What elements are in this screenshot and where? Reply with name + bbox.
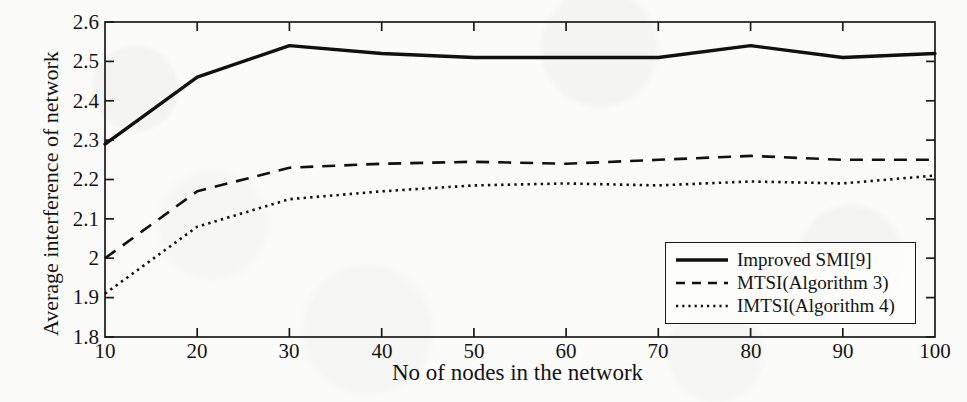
- legend-sample-dashed-icon: [674, 276, 730, 290]
- legend-sample-solid-icon: [674, 253, 730, 267]
- legend-sample-dotted-icon: [674, 299, 730, 313]
- legend-label-improved-smi: Improved SMI[9]: [737, 250, 872, 269]
- legend-entry-imtsi: IMTSI(Algorithm 4): [674, 294, 907, 317]
- legend-entry-improved-smi: Improved SMI[9]: [674, 248, 907, 271]
- legend-entry-mtsi: MTSI(Algorithm 3): [674, 271, 907, 294]
- y-axis-title: Average interference of network: [38, 51, 64, 336]
- figure-container: 1.8 1.9 2 2.1 2.2 2.3 2.4 2.5 2.6 10 20 …: [0, 0, 967, 402]
- x-tick-label-90: 90: [818, 341, 868, 362]
- x-axis-title: No of nodes in the network: [392, 360, 643, 386]
- legend-label-mtsi: MTSI(Algorithm 3): [737, 273, 888, 292]
- series-line-improved-smi: [105, 46, 935, 144]
- x-tick-label-50: 50: [449, 341, 499, 362]
- x-tick-label-20: 20: [172, 341, 222, 362]
- legend-label-imtsi: IMTSI(Algorithm 4): [737, 296, 895, 315]
- y-tick-label-2-6: 2.6: [47, 12, 99, 33]
- x-tick-label-100: 100: [908, 341, 962, 362]
- x-tick-label-60: 60: [541, 341, 591, 362]
- chart-legend: Improved SMI[9] MTSI(Algorithm 3) IMTSI(…: [665, 242, 916, 324]
- x-tick-label-70: 70: [633, 341, 683, 362]
- x-tick-label-80: 80: [726, 341, 776, 362]
- x-tick-label-30: 30: [264, 341, 314, 362]
- x-tick-label-40: 40: [357, 341, 407, 362]
- x-tick-label-10: 10: [80, 341, 130, 362]
